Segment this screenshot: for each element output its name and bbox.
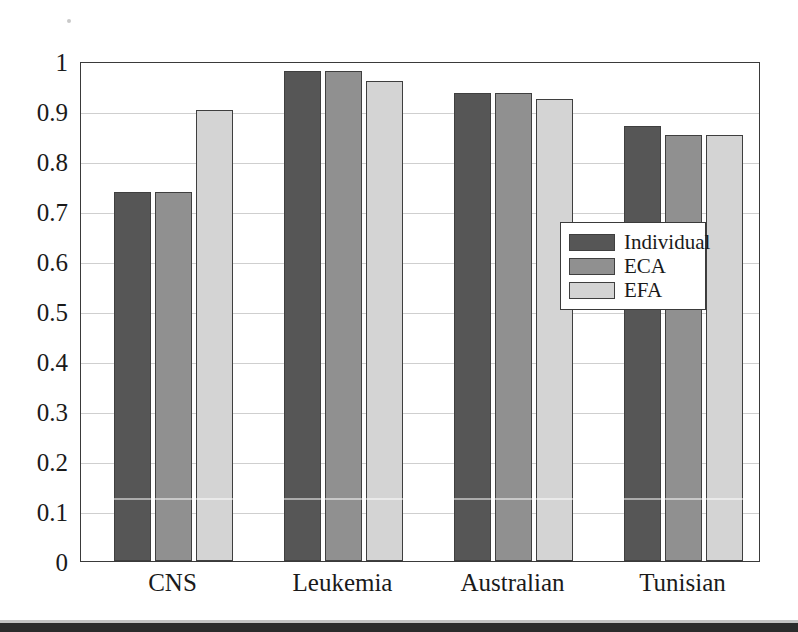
plot-area [80, 62, 760, 562]
bar [196, 110, 233, 561]
x-axis-tick-label: Tunisian [593, 570, 773, 595]
legend-item: ECA [569, 254, 697, 278]
x-axis-tick-label: Australian [423, 570, 603, 595]
bar [624, 126, 661, 561]
y-axis-tick-label: 0.4 [2, 350, 68, 375]
scan-artifact-speck [67, 19, 71, 23]
chart-legend: IndividualECAEFA [560, 222, 706, 310]
bar [155, 192, 192, 561]
gridline [81, 113, 759, 114]
y-axis-tick-label: 0.5 [2, 300, 68, 325]
scan-artifact-band [82, 498, 759, 500]
bar [536, 99, 573, 562]
x-axis-tick-label: Leukemia [253, 570, 433, 595]
bar [114, 192, 151, 561]
y-axis-tick-label: 0.1 [2, 500, 68, 525]
bar [325, 71, 362, 561]
legend-swatch [569, 258, 615, 275]
bar [495, 93, 532, 562]
x-axis-tick-label: CNS [83, 570, 263, 595]
bar [454, 93, 491, 562]
legend-swatch [569, 282, 615, 299]
scan-artifact-footer-bar [0, 623, 798, 632]
y-axis-tick-label: 0.8 [2, 150, 68, 175]
y-axis-tick-label: 1 [2, 50, 68, 75]
legend-label: ECA [624, 256, 666, 277]
y-axis-tick-label: 0.2 [2, 450, 68, 475]
y-axis-tick-label: 0 [2, 550, 68, 575]
legend-swatch [569, 234, 615, 251]
legend-item: Individual [569, 230, 697, 254]
bar [284, 71, 321, 561]
y-axis-tick-label: 0.6 [2, 250, 68, 275]
legend-label: Individual [624, 232, 710, 253]
legend-label: EFA [624, 280, 662, 301]
legend-item: EFA [569, 278, 697, 302]
bar-chart-figure: 00.10.20.30.40.50.60.70.80.91 CNSLeukemi… [0, 0, 798, 632]
y-axis-tick-label: 0.3 [2, 400, 68, 425]
bar [366, 81, 403, 561]
y-axis-tick-label: 0.7 [2, 200, 68, 225]
y-axis-tick-label: 0.9 [2, 100, 68, 125]
